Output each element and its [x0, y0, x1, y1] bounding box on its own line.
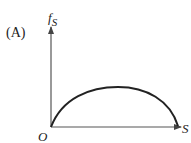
fs-curve	[51, 87, 178, 127]
x-axis-label: S	[182, 121, 189, 136]
origin-label: O	[38, 129, 48, 143]
diagram: (A) fS S O	[0, 0, 191, 143]
panel-label: (A)	[6, 25, 26, 41]
y-axis-label: fS	[48, 10, 58, 28]
